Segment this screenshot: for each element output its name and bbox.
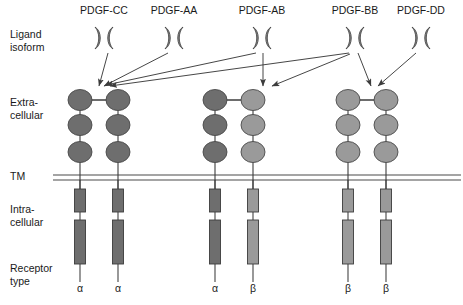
kinase-box-juxtamembrane (248, 189, 259, 212)
ligand-shape-pdgf-aa (165, 27, 183, 49)
receptor-type-label-col1-right: α (115, 282, 121, 294)
ecto-domain-alpha (68, 115, 92, 136)
ecto-domain-alpha (203, 142, 227, 163)
kinase-box-catalytic (343, 220, 354, 264)
ecto-domain-alpha (106, 142, 130, 163)
ligand-shape-pdgf-ab (253, 27, 271, 49)
kinase-box-juxtamembrane (113, 189, 124, 212)
ecto-domain-alpha (106, 90, 130, 111)
receptor-type-label-col1-left: α (77, 282, 83, 294)
ecto-domain-alpha (106, 115, 130, 136)
ecto-domain-alpha (203, 90, 227, 111)
ecto-domain-beta (336, 142, 360, 163)
receptor-type-label-col3-right: β (383, 282, 389, 294)
ligand-shape-pdgf-bb (346, 27, 364, 49)
kinase-box-catalytic (75, 220, 86, 264)
ecto-domain-beta (374, 90, 398, 111)
kinase-box-catalytic (113, 220, 124, 264)
ligand-shape-pdgf-cc (95, 27, 113, 49)
receptor-column-beta-beta (336, 90, 398, 283)
kinase-box-catalytic (381, 220, 392, 264)
diagram-canvas (0, 0, 463, 305)
kinase-box-juxtamembrane (343, 189, 354, 212)
arrow-pdgf-bb-to-beta-beta (358, 53, 371, 86)
ecto-domain-alpha (68, 142, 92, 163)
kinase-box-catalytic (248, 220, 259, 264)
ecto-domain-beta (374, 115, 398, 136)
ligand-shape-pdgf-dd (412, 27, 430, 49)
ecto-domain-alpha (68, 90, 92, 111)
ecto-domain-beta (336, 115, 360, 136)
ecto-domain-beta (374, 142, 398, 163)
kinase-box-juxtamembrane (210, 189, 221, 212)
ecto-domain-beta (336, 90, 360, 111)
receptor-column-alpha-alpha (68, 90, 130, 283)
receptor-column-alpha-beta (203, 90, 265, 283)
arrow-pdgf-aa-to-alpha-alpha (104, 53, 168, 86)
receptor-type-label-col2-right: β (250, 282, 256, 294)
receptor-type-label-col2-left: α (212, 282, 218, 294)
ecto-domain-beta (241, 142, 265, 163)
ecto-domain-alpha (203, 115, 227, 136)
kinase-box-juxtamembrane (75, 189, 86, 212)
arrow-pdgf-bb-to-alpha-beta (272, 54, 350, 86)
pdgf-receptor-diagram: Ligand isoform Extra- cellular TM Intra-… (0, 0, 463, 305)
membrane-tm-line (53, 175, 461, 180)
ecto-domain-beta (241, 90, 265, 111)
receptor-type-label-col3-left: β (345, 282, 351, 294)
kinase-box-juxtamembrane (381, 189, 392, 212)
arrow-pdgf-dd-to-beta-beta (378, 53, 416, 86)
arrow-pdgf-cc-to-alpha-alpha (99, 53, 108, 86)
kinase-box-catalytic (210, 220, 221, 264)
ecto-domain-beta (241, 115, 265, 136)
